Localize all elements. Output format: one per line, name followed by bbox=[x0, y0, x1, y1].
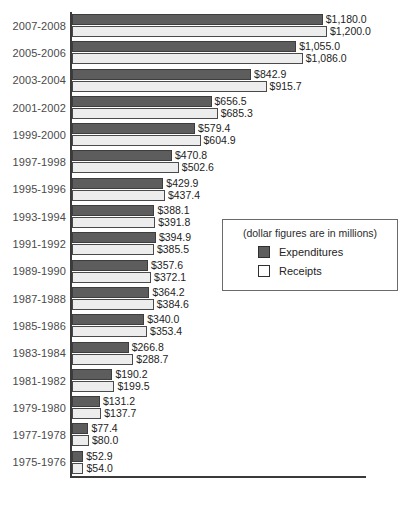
category-label: 1997-1998 bbox=[12, 156, 66, 168]
bar-receipts: $384.6 bbox=[72, 299, 189, 310]
bar-rect bbox=[72, 217, 155, 228]
bar-rect bbox=[72, 150, 172, 161]
bar-rect bbox=[72, 108, 218, 119]
bar-row: 1981-1982$190.2$199.5 bbox=[0, 367, 414, 394]
bar-receipts: $54.0 bbox=[72, 463, 113, 474]
bar-group: $656.5$685.3 bbox=[72, 94, 412, 121]
bar-rect bbox=[72, 205, 154, 216]
bar-row: 1983-1984$266.8$288.7 bbox=[0, 340, 414, 367]
bar-rect bbox=[72, 381, 114, 392]
bar-value-label: $384.6 bbox=[154, 299, 189, 310]
bar-rect bbox=[72, 190, 165, 201]
bar-value-label: $364.2 bbox=[149, 287, 184, 298]
legend-label-expenditures: Expenditures bbox=[279, 246, 343, 258]
bar-value-label: $437.4 bbox=[165, 190, 200, 201]
bar-expenditures: $52.9 bbox=[72, 451, 113, 462]
legend-label-receipts: Receipts bbox=[279, 265, 322, 277]
bar-rect bbox=[72, 178, 163, 189]
bar-receipts: $1,200.0 bbox=[72, 26, 371, 37]
bar-value-label: $388.1 bbox=[154, 205, 189, 216]
category-label: 1989-1990 bbox=[12, 265, 66, 277]
bar-expenditures: $388.1 bbox=[72, 205, 190, 216]
bar-rect bbox=[72, 408, 101, 419]
bar-value-label: $52.9 bbox=[83, 451, 112, 462]
bar-expenditures: $266.8 bbox=[72, 342, 164, 353]
bar-value-label: $340.0 bbox=[144, 314, 179, 325]
category-label: 2001-2002 bbox=[12, 102, 66, 114]
category-label: 1981-1982 bbox=[12, 375, 66, 387]
bar-group: $190.2$199.5 bbox=[72, 367, 412, 394]
bar-value-label: $579.4 bbox=[195, 123, 230, 134]
legend-item-receipts: Receipts bbox=[223, 265, 397, 277]
category-label: 1985-1986 bbox=[12, 320, 66, 332]
bar-receipts: $502.6 bbox=[72, 162, 214, 173]
bar-rect bbox=[72, 81, 267, 92]
bar-value-label: $137.7 bbox=[101, 408, 136, 419]
bar-rect bbox=[72, 435, 89, 446]
bar-expenditures: $394.9 bbox=[72, 232, 191, 243]
bar-rect bbox=[72, 53, 303, 64]
bar-group: $340.0$353.4 bbox=[72, 312, 412, 339]
bar-rect bbox=[72, 396, 100, 407]
bar-group: $1,055.0$1,086.0 bbox=[72, 39, 412, 66]
bar-group: $429.9$437.4 bbox=[72, 176, 412, 203]
bar-row: 1985-1986$340.0$353.4 bbox=[0, 312, 414, 339]
bar-expenditures: $1,055.0 bbox=[72, 41, 340, 52]
bar-rect bbox=[72, 342, 129, 353]
category-label: 2003-2004 bbox=[12, 74, 66, 86]
category-label: 2007-2008 bbox=[12, 20, 66, 32]
bar-value-label: $470.8 bbox=[172, 150, 207, 161]
bar-receipts: $385.5 bbox=[72, 244, 189, 255]
bar-receipts: $199.5 bbox=[72, 381, 150, 392]
bar-value-label: $685.3 bbox=[218, 108, 253, 119]
category-label: 1975-1976 bbox=[12, 456, 66, 468]
bar-expenditures: $190.2 bbox=[72, 369, 148, 380]
category-label: 1991-1992 bbox=[12, 238, 66, 250]
bar-row: 1975-1976$52.9$54.0 bbox=[0, 449, 414, 476]
bar-value-label: $1,055.0 bbox=[296, 41, 340, 52]
bar-receipts: $437.4 bbox=[72, 190, 200, 201]
bar-expenditures: $429.9 bbox=[72, 178, 198, 189]
bar-receipts: $915.7 bbox=[72, 81, 302, 92]
legend-item-expenditures: Expenditures bbox=[223, 246, 397, 258]
bar-expenditures: $131.2 bbox=[72, 396, 135, 407]
bar-rect bbox=[72, 326, 147, 337]
category-label: 1993-1994 bbox=[12, 211, 66, 223]
bar-expenditures: $364.2 bbox=[72, 287, 185, 298]
bar-group: $579.4$604.9 bbox=[72, 121, 412, 148]
bar-rect bbox=[72, 123, 195, 134]
bar-group: $52.9$54.0 bbox=[72, 449, 412, 476]
bar-rect bbox=[72, 26, 327, 37]
bar-expenditures: $340.0 bbox=[72, 314, 179, 325]
bar-value-label: $266.8 bbox=[129, 342, 164, 353]
bar-expenditures: $579.4 bbox=[72, 123, 230, 134]
category-label: 1977-1978 bbox=[12, 429, 66, 441]
bar-row: 1999-2000$579.4$604.9 bbox=[0, 121, 414, 148]
bar-group: $266.8$288.7 bbox=[72, 340, 412, 367]
bar-value-label: $915.7 bbox=[267, 81, 302, 92]
bar-rect bbox=[72, 272, 151, 283]
bar-value-label: $394.9 bbox=[156, 232, 191, 243]
bar-row: 1997-1998$470.8$502.6 bbox=[0, 148, 414, 175]
bar-rect bbox=[72, 135, 201, 146]
bar-value-label: $288.7 bbox=[133, 354, 168, 365]
bar-value-label: $77.4 bbox=[88, 423, 117, 434]
bar-group: $131.2$137.7 bbox=[72, 394, 412, 421]
bar-value-label: $385.5 bbox=[154, 244, 189, 255]
category-label: 2005-2006 bbox=[12, 47, 66, 59]
bar-receipts: $1,086.0 bbox=[72, 53, 347, 64]
category-label: 1983-1984 bbox=[12, 347, 66, 359]
bar-rect bbox=[72, 314, 144, 325]
bar-row: 1979-1980$131.2$137.7 bbox=[0, 394, 414, 421]
bar-value-label: $1,200.0 bbox=[327, 26, 371, 37]
bar-receipts: $137.7 bbox=[72, 408, 136, 419]
bar-group: $1,180.0$1,200.0 bbox=[72, 12, 412, 39]
bar-value-label: $80.0 bbox=[89, 435, 118, 446]
bar-rect bbox=[72, 260, 148, 271]
bar-value-label: $131.2 bbox=[100, 396, 135, 407]
category-label: 1995-1996 bbox=[12, 183, 66, 195]
bar-receipts: $372.1 bbox=[72, 272, 186, 283]
legend-swatch-expenditures-icon bbox=[258, 246, 270, 258]
bar-row: 2007-2008$1,180.0$1,200.0 bbox=[0, 12, 414, 39]
bar-expenditures: $357.6 bbox=[72, 260, 183, 271]
